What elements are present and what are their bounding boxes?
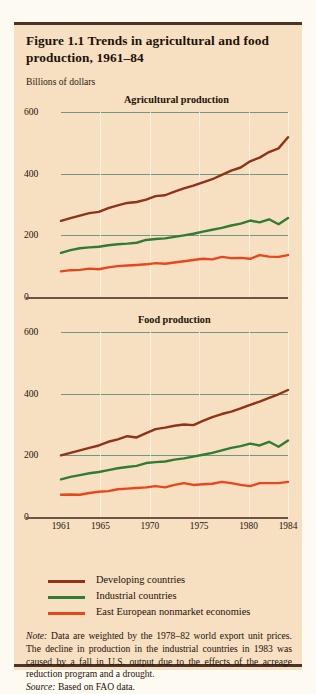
x-axis-ticks: 196119651970197519801984 bbox=[61, 521, 288, 537]
source-prefix: Source: bbox=[26, 681, 55, 692]
x-axis-line bbox=[61, 297, 288, 299]
legend-swatch bbox=[48, 580, 85, 583]
y-axis-unit-label: Billions of dollars bbox=[26, 76, 95, 87]
chart-title-agricultural: Agricultural production bbox=[124, 94, 229, 105]
chart-legend: Developing countriesIndustrial countries… bbox=[48, 574, 298, 622]
x-axis-line-extension bbox=[26, 297, 61, 299]
legend-item[interactable]: Industrial countries bbox=[48, 590, 298, 606]
figure-card: Figure 1.1 Trends in agricultural and fo… bbox=[14, 22, 302, 670]
y-tick-label: 600 bbox=[24, 326, 38, 337]
figure-note: Note: Data are weighted by the 1978–82 w… bbox=[26, 630, 292, 694]
note-prefix: Note: bbox=[26, 630, 47, 641]
legend-label: Industrial countries bbox=[96, 590, 177, 601]
x-tick-label: 1975 bbox=[190, 521, 209, 531]
x-tick-label: 1980 bbox=[239, 521, 258, 531]
y-tick-label: 600 bbox=[24, 106, 38, 117]
chart-panel-food: Food production 196119651970197519801984… bbox=[14, 310, 302, 554]
series-layer bbox=[61, 112, 288, 297]
figure-title: Figure 1.1 Trends in agricultural and fo… bbox=[26, 32, 292, 66]
y-tick-label: 400 bbox=[24, 168, 38, 179]
series-line bbox=[61, 218, 288, 253]
x-axis-line bbox=[61, 517, 288, 519]
x-tick-label: 1965 bbox=[91, 521, 110, 531]
plot-area-food bbox=[61, 332, 288, 517]
chart-title-food: Food production bbox=[138, 314, 211, 325]
source-text: Based on FAO data. bbox=[55, 681, 135, 692]
x-tick-label: 1961 bbox=[52, 521, 71, 531]
gridline-vertical bbox=[288, 112, 289, 297]
y-tick-label: 200 bbox=[24, 449, 38, 460]
y-tick-label: 400 bbox=[24, 388, 38, 399]
note-text: Data are weighted by the 1978–82 world e… bbox=[26, 630, 292, 679]
x-tick-label: 1970 bbox=[140, 521, 159, 531]
x-tick-label: 1984 bbox=[279, 521, 298, 531]
top-rule bbox=[14, 22, 302, 25]
gridline-vertical bbox=[288, 332, 289, 517]
series-line bbox=[61, 482, 288, 495]
legend-swatch bbox=[48, 612, 85, 615]
y-tick-label: 200 bbox=[24, 229, 38, 240]
legend-label: East European nonmarket economies bbox=[96, 606, 250, 617]
series-line bbox=[61, 137, 288, 221]
series-line bbox=[61, 255, 288, 271]
chart-panel-agricultural: Agricultural production 0200400600 bbox=[14, 90, 302, 306]
legend-label: Developing countries bbox=[96, 574, 185, 585]
legend-swatch bbox=[48, 596, 85, 599]
plot-area-agricultural bbox=[61, 112, 288, 297]
x-axis-line-extension bbox=[26, 517, 61, 519]
legend-item[interactable]: East European nonmarket economies bbox=[48, 606, 298, 622]
legend-item[interactable]: Developing countries bbox=[48, 574, 298, 590]
series-layer bbox=[61, 332, 288, 517]
